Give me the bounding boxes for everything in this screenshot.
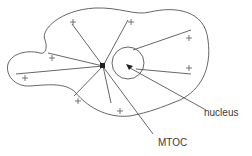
mtoc-leader-line [104,68,153,134]
plus-marker [49,55,55,61]
mtoc-label: MTOC [158,138,187,148]
plus-marker [75,98,81,104]
microtubule [133,30,191,50]
microtubule [136,69,191,74]
plus-marker [117,108,123,114]
cell-membrane [7,8,208,116]
microtubule [16,66,103,74]
microtubule [103,20,128,66]
microtubule [74,66,103,96]
nucleus [112,47,144,79]
plus-marker [128,19,134,25]
plus-marker [186,35,192,41]
plus-marker [70,19,76,25]
mtoc [100,63,105,68]
cell-diagram [0,0,252,156]
plus-end-markers [22,19,192,114]
plus-marker [186,65,192,71]
nucleus-label: nucleus [204,108,238,118]
leader-lines [104,64,206,134]
plus-marker [22,75,28,81]
microtubules [16,20,191,103]
